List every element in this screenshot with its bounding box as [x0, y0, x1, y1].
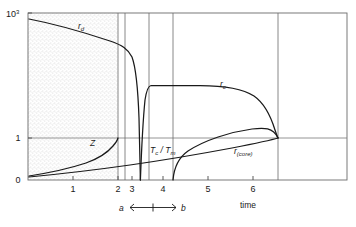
curve-label-rc: rc [220, 79, 226, 90]
x-tick-label-6: 6 [250, 184, 255, 194]
y-axis-zero-label: 0 [15, 175, 20, 185]
chart-canvas: 103 1 0 1 2 3 4 5 6 rd rc Z Tc / Tm r(co… [0, 0, 356, 227]
curve-label-z: Z [89, 138, 96, 148]
curve-rc [140, 86, 278, 181]
x-tick-label-3: 3 [129, 184, 134, 194]
ab-marker-label-a: a [119, 203, 124, 213]
y-axis-top-label: 103 [6, 9, 20, 20]
ab-range-marker: a b [119, 203, 186, 213]
y-axis-mid-label: 1 [15, 133, 20, 143]
curve-label-tc-tm: Tc / Tm [150, 145, 175, 156]
curve-label-rcore: r(core) [234, 146, 253, 157]
x-tick-label-5: 5 [205, 184, 210, 194]
curve-rcore [173, 128, 278, 180]
x-tick-label-4: 4 [160, 184, 165, 194]
x-tick-label-2: 2 [115, 184, 120, 194]
ab-marker-label-b: b [181, 203, 186, 213]
figure-svg: 103 1 0 1 2 3 4 5 6 rd rc Z Tc / Tm r(co… [0, 0, 356, 227]
ab-marker-arrow [130, 204, 176, 212]
x-axis-title: time [240, 200, 256, 210]
stippled-region [28, 13, 118, 180]
x-tick-label-1: 1 [70, 184, 75, 194]
